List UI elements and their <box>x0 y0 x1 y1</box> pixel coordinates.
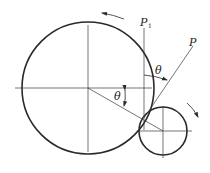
large-rotation-arrow <box>102 13 124 19</box>
label-p1: P <box>139 16 148 29</box>
theta-lower-arc <box>124 90 125 106</box>
roller-contact-diagram: P 1 P θ θ <box>0 0 210 173</box>
label-theta-lower: θ <box>114 90 121 103</box>
small-rotation-arrow <box>187 103 198 117</box>
label-p: P <box>188 36 197 49</box>
label-theta-upper: θ <box>155 64 162 77</box>
label-p1-subscript: 1 <box>148 22 152 29</box>
